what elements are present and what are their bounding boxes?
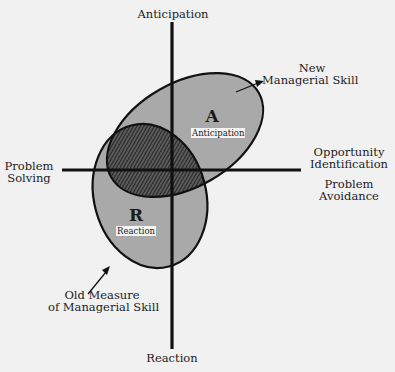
axis-label-top: Anticipation bbox=[132, 8, 214, 20]
region-r-letter: R bbox=[126, 207, 146, 224]
axis-label-right-lower: Problem Avoidance bbox=[312, 178, 386, 202]
axis-label-left-line2: Solving bbox=[4, 172, 54, 184]
callout-old-skill-line2: of Managerial Skill bbox=[48, 301, 156, 313]
region-r-tag: Reaction bbox=[116, 226, 156, 236]
callout-new-skill: New Managerial Skill bbox=[262, 62, 354, 86]
quadrant-diagram: Anticipation Reaction Problem Solving Op… bbox=[0, 0, 395, 372]
axis-label-right-upper: Opportunity Identification bbox=[308, 146, 390, 170]
callout-old-skill: Old Measure of Managerial Skill bbox=[48, 289, 156, 313]
axis-label-right-upper-line2: Identification bbox=[308, 158, 390, 170]
axis-label-left: Problem Solving bbox=[4, 160, 54, 184]
axis-label-right-lower-line2: Avoidance bbox=[312, 190, 386, 202]
callout-new-skill-line2: Managerial Skill bbox=[262, 74, 354, 86]
region-a-letter: A bbox=[202, 108, 222, 125]
axis-label-bottom: Reaction bbox=[142, 352, 202, 364]
region-a-tag: Anticipation bbox=[191, 128, 245, 138]
